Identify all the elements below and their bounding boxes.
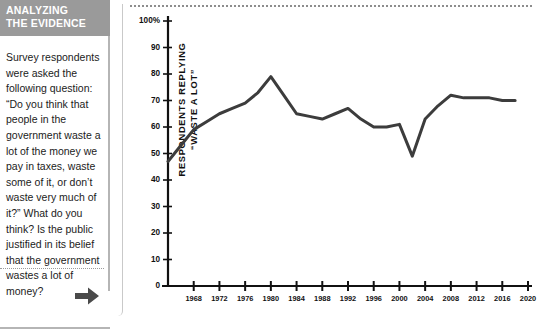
y-tick-label: 90 [130,43,160,52]
y-tick-label: 20 [130,228,160,237]
y-tick-label: 60 [130,122,160,131]
data-series-line [168,77,515,162]
sidebar-arrow-container[interactable] [0,269,110,326]
chart-plot-area [130,10,534,318]
y-tick-label: 30 [130,202,160,211]
x-tick-label: 2020 [511,294,541,303]
sidebar-header: ANALYZING THE EVIDENCE [0,0,110,36]
sidebar-right-edge [118,4,123,316]
y-tick-label: 10 [130,255,160,264]
sidebar-header-line2: THE EVIDENCE [6,17,110,30]
sidebar-body: Survey respondents were asked the follow… [0,36,110,291]
analyzing-evidence-sidebar: ANALYZING THE EVIDENCE Survey respondent… [0,0,122,322]
y-tick-label: 0 [130,281,160,290]
top-dotted-rule [130,5,532,7]
y-tick-label: 80 [130,69,160,78]
sidebar-header-line1: ANALYZING [6,4,110,17]
y-tick-label: 70 [130,96,160,105]
y-tick-label: 40 [130,175,160,184]
arrow-right-icon[interactable] [74,286,100,310]
waste-a-lot-line-chart: RESPONDENTS REPLYING “WASTE A LOT” 01020… [130,10,534,318]
survey-question-text: Survey respondents were asked the follow… [6,50,104,300]
y-tick-label: 50 [130,149,160,158]
y-tick-label: 100% [130,16,160,25]
